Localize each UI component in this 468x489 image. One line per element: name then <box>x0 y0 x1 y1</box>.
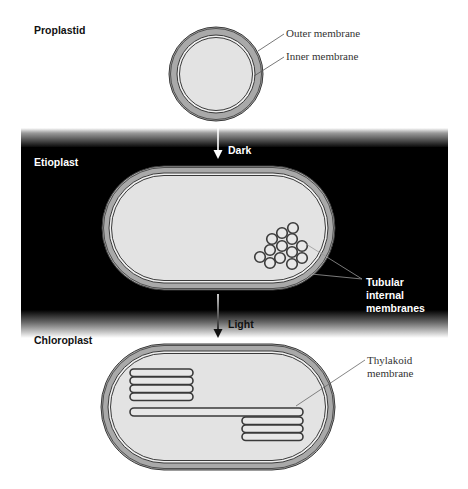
tubular-label-line3: membranes <box>366 302 425 314</box>
tubule-circle <box>297 241 308 252</box>
thylakoid-label-line1: Thylakoid <box>367 354 413 366</box>
outer-membrane-label: Outer membrane <box>286 27 360 39</box>
tubular-label-line1: Tubular <box>366 276 404 288</box>
tubule-circle <box>287 234 298 245</box>
dark-label: Dark <box>228 144 252 156</box>
tubule-circle <box>277 228 288 239</box>
tubule-circle <box>297 253 308 264</box>
tubule-circle <box>288 223 299 234</box>
tubule-circle <box>275 253 286 264</box>
plastid-development-diagram: Proplastid Outer membrane Inner membrane… <box>0 0 468 489</box>
granum-left <box>130 369 193 401</box>
proplastid-title: Proplastid <box>34 24 85 36</box>
proplastid-organelle <box>169 27 263 121</box>
tubule-circle <box>267 234 278 245</box>
tubule-circle <box>265 245 276 256</box>
tubule-circle <box>277 241 288 252</box>
stroma-lamella <box>130 408 303 416</box>
etioplast-title: Etioplast <box>34 156 79 168</box>
chloroplast-title: Chloroplast <box>34 334 93 346</box>
granum-right <box>242 417 303 441</box>
light-label: Light <box>228 318 254 330</box>
thylakoid-label-line2: membrane <box>367 367 414 379</box>
tubule-circle <box>287 247 298 258</box>
outer-membrane-leader <box>258 34 284 51</box>
etioplast-organelle <box>102 166 335 290</box>
inner-membrane-label: Inner membrane <box>286 50 358 62</box>
chloroplast-organelle <box>101 344 335 470</box>
tubule-circle <box>287 259 298 270</box>
tubular-label-line2: internal <box>366 289 404 301</box>
diagram-canvas: Proplastid Outer membrane Inner membrane… <box>0 0 468 489</box>
tubule-circle <box>255 252 266 263</box>
tubule-circle <box>265 258 276 269</box>
